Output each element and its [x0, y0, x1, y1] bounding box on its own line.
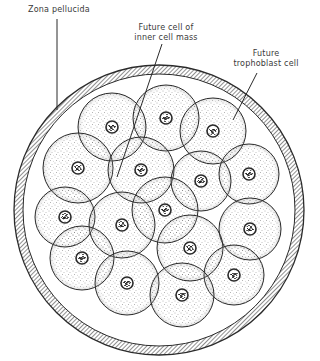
label-inner-cell-mass-line1: Future cell of: [126, 23, 206, 33]
cell-group: [35, 85, 281, 327]
label-inner-cell-mass-line2: inner cell mass: [126, 33, 206, 43]
label-inner-cell-mass: Future cell of inner cell mass: [126, 23, 206, 43]
blastomere-cell: [219, 144, 279, 204]
label-trophoblast: Future trophoblast cell: [226, 49, 306, 69]
blastomere-cell: [95, 251, 159, 315]
label-zona-pellucida: Zona pellucida: [28, 5, 90, 15]
label-trophoblast-line1: Future: [226, 49, 306, 59]
label-trophoblast-line2: trophoblast cell: [226, 59, 306, 69]
blastomere-cell: [150, 263, 214, 327]
